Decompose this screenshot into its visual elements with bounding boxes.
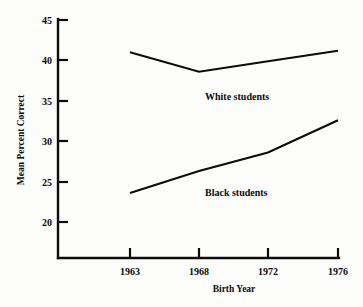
chart-container: 45 40 35 30 25 20 1963 1968 1972 1976 Bi… xyxy=(0,0,363,307)
x-tick-label-1963: 1963 xyxy=(120,266,140,277)
series-line-white-students xyxy=(130,51,338,72)
y-tick-label-25: 25 xyxy=(42,177,52,188)
y-tick-label-30: 30 xyxy=(42,136,52,147)
y-tick-label-35: 35 xyxy=(42,96,52,107)
y-tick-label-20: 20 xyxy=(42,217,52,228)
line-chart-svg: 45 40 35 30 25 20 1963 1968 1972 1976 Bi… xyxy=(0,0,363,307)
y-axis-ticks xyxy=(58,20,68,222)
series-line-black-students xyxy=(130,120,338,193)
y-tick-label-40: 40 xyxy=(42,55,52,66)
y-tick-label-45: 45 xyxy=(42,15,52,26)
x-tick-label-1968: 1968 xyxy=(189,266,209,277)
x-tick-label-1976: 1976 xyxy=(328,266,348,277)
x-tick-label-1972: 1972 xyxy=(258,266,278,277)
series-label-black-students: Black students xyxy=(205,187,268,198)
series-label-white-students: White students xyxy=(205,91,269,102)
y-axis-tick-labels: 45 40 35 30 25 20 xyxy=(42,15,52,228)
x-axis-tick-labels: 1963 1968 1972 1976 xyxy=(120,266,348,277)
x-axis-title: Birth Year xyxy=(213,284,256,294)
y-axis-title: Mean Percent Correct xyxy=(16,94,26,185)
x-axis-ticks xyxy=(130,248,338,258)
